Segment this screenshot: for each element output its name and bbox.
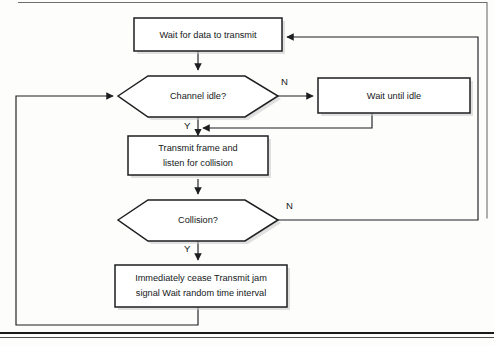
node-transmit-frame-line1: Transmit frame and — [158, 143, 237, 153]
node-transmit-frame-line2: listen for collision — [163, 158, 233, 168]
branch-label-channel-idle-yes: Y — [184, 120, 191, 131]
node-cease-transmit-line2: signal Wait random time interval — [136, 288, 266, 298]
node-wait-for-data[interactable]: Wait for data to transmit — [134, 18, 285, 54]
flowchart-canvas: Wait for data to transmit Channel idle? … — [0, 0, 494, 346]
node-channel-idle-label: Channel idle? — [170, 91, 226, 101]
node-wait-until-idle-label: Wait until idle — [367, 91, 421, 101]
node-collision[interactable]: Collision? — [118, 200, 281, 244]
node-wait-for-data-label: Wait for data to transmit — [159, 30, 257, 40]
node-cease-transmit[interactable]: Immediately cease Transmit jam signal Wa… — [115, 265, 290, 310]
page-bottom-rule — [0, 333, 494, 338]
branch-label-channel-idle-no: N — [281, 76, 288, 87]
branch-label-collision-no: N — [286, 200, 293, 211]
node-transmit-frame[interactable]: Transmit frame and listen for collision — [128, 136, 271, 178]
node-cease-transmit-line1: Immediately cease Transmit jam — [135, 273, 267, 283]
scanned-page: Wait for data to transmit Channel idle? … — [0, 0, 494, 346]
node-channel-idle[interactable]: Channel idle? — [118, 76, 281, 120]
branch-label-collision-yes: Y — [184, 243, 191, 254]
node-wait-until-idle[interactable]: Wait until idle — [318, 78, 473, 116]
node-collision-label: Collision? — [178, 215, 218, 225]
